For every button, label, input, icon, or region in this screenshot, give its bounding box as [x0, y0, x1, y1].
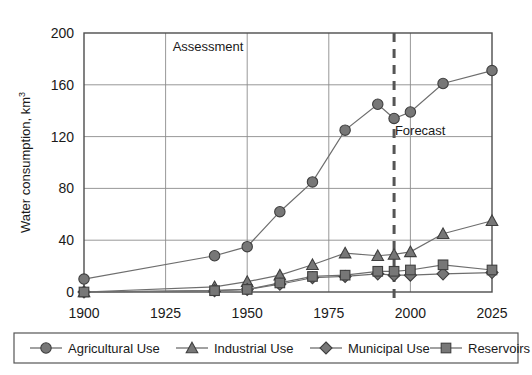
chart-legend[interactable]: Agricultural UseIndustrial UseMunicipal …	[14, 333, 531, 363]
data-point-square	[487, 265, 497, 275]
x-tick-label: 1925	[150, 305, 181, 321]
data-point-square	[406, 265, 416, 275]
legend-label: Municipal Use	[348, 341, 430, 356]
x-tick-label: 1975	[313, 305, 344, 321]
data-point-circle	[41, 343, 51, 353]
y-axis-title: Water consumption, km3	[17, 92, 33, 233]
x-tick-label: 1900	[68, 305, 99, 321]
data-point-circle	[209, 251, 219, 261]
data-point-circle	[405, 107, 415, 117]
y-tick-label: 120	[51, 129, 75, 145]
data-point-circle	[275, 207, 285, 217]
legend-label: Agricultural Use	[68, 341, 160, 356]
y-tick-label: 0	[66, 284, 74, 300]
data-point-square	[210, 286, 220, 296]
legend-label: Industrial Use	[214, 341, 293, 356]
data-point-square	[79, 287, 89, 297]
annotation-assessment: Assessment	[173, 39, 244, 54]
x-tick-label: 2000	[395, 305, 426, 321]
data-point-circle	[389, 113, 399, 123]
y-tick-label: 40	[58, 232, 74, 248]
data-point-square	[275, 278, 285, 288]
data-point-circle	[438, 78, 448, 88]
data-point-circle	[307, 177, 317, 187]
y-axis-label: Water consumption, km3	[17, 92, 33, 233]
data-point-square	[308, 272, 318, 282]
data-point-square	[389, 266, 399, 276]
data-point-square	[441, 343, 451, 353]
data-point-square	[373, 266, 383, 276]
annotation-forecast: Forecast	[395, 123, 446, 138]
x-tick-label: 2025	[476, 305, 507, 321]
y-tick-label: 200	[51, 25, 75, 41]
legend-label: Reservoirs	[468, 341, 531, 356]
data-point-circle	[487, 65, 497, 75]
chart-svg: 04080120160200 190019251950197520002025 …	[0, 0, 532, 375]
x-tick-label: 1950	[232, 305, 263, 321]
data-point-square	[242, 285, 252, 295]
data-point-circle	[373, 99, 383, 109]
data-point-square	[438, 260, 448, 270]
data-point-circle	[242, 241, 252, 251]
y-tick-label: 160	[51, 77, 75, 93]
data-point-square	[340, 270, 350, 280]
chart-figure: 04080120160200 190019251950197520002025 …	[0, 0, 532, 375]
data-point-circle	[340, 125, 350, 135]
data-point-circle	[79, 274, 89, 284]
y-tick-label: 80	[58, 180, 74, 196]
